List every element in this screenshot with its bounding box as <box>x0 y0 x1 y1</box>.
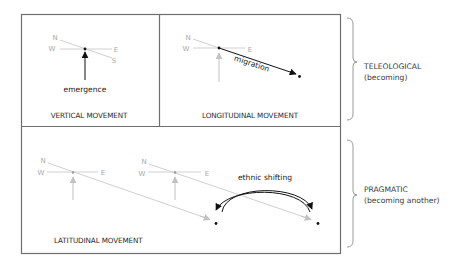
compass-north-label: N <box>52 34 57 42</box>
compass-rose-1: N W E <box>38 157 209 219</box>
ethnic-shifting-arrows <box>216 191 312 212</box>
destination-point-2 <box>317 222 320 225</box>
compass-west-label: W <box>49 45 56 53</box>
vertical-movement-caption: VERTICAL MOVEMENT <box>51 111 128 120</box>
curly-brace-icon <box>347 18 357 120</box>
origin-point <box>84 48 87 51</box>
compass-north-label: N <box>185 34 190 42</box>
curly-brace-icon <box>347 140 357 247</box>
destination-point <box>298 75 301 78</box>
compass-west-label: W <box>183 45 190 53</box>
pragmatic-subtitle: (becoming another) <box>364 196 440 205</box>
compass-rose: N W E <box>183 34 253 54</box>
ethnic-shifting-label: ethnic shifting <box>238 173 292 182</box>
panel-vertical-movement: N W E S emergence VERTICAL MOVEMENT <box>49 34 128 120</box>
compass-north-label: N <box>141 158 146 166</box>
group-pragmatic: PRAGMATIC (becoming another) <box>347 140 440 247</box>
compass-east-label: E <box>248 46 252 54</box>
faded-migration-arrow-2 <box>301 216 311 220</box>
faded-migration-arrow-1 <box>200 216 210 220</box>
latitudinal-movement-caption: LATITUDINAL MOVEMENT <box>54 236 143 245</box>
pragmatic-title: PRAGMATIC <box>364 185 408 194</box>
panel-latitudinal-movement: N W E N W E ethnic shifting LATITUDINAL … <box>38 157 320 245</box>
compass-south-label: S <box>112 57 117 65</box>
teleological-title: TELEOLOGICAL <box>363 62 422 71</box>
compass-rose: N W E S <box>49 34 119 65</box>
compass-rose-2: N W E <box>139 158 310 219</box>
compass-east-label: E <box>114 46 118 54</box>
destination-point-1 <box>215 222 218 225</box>
compass-north-label: N <box>40 157 45 165</box>
compass-east-label: E <box>205 170 209 178</box>
origin-point-2 <box>174 171 176 173</box>
panel-longitudinal-movement: N W E migration LONGITUDINAL MOVEMENT <box>183 34 301 120</box>
emergence-label: emergence <box>64 85 107 94</box>
diagram-frame <box>22 15 341 254</box>
compass-west-label: W <box>38 169 45 177</box>
compass-east-label: E <box>101 169 105 177</box>
compass-west-label: W <box>139 170 146 178</box>
origin-point-1 <box>72 171 74 173</box>
migration-label: migration <box>233 54 271 74</box>
movement-diagram: N W E S emergence VERTICAL MOVEMENT N W … <box>0 0 458 267</box>
teleological-subtitle: (becoming) <box>364 73 407 82</box>
group-teleological: TELEOLOGICAL (becoming) <box>347 18 422 120</box>
longitudinal-movement-caption: LONGITUDINAL MOVEMENT <box>202 111 299 120</box>
